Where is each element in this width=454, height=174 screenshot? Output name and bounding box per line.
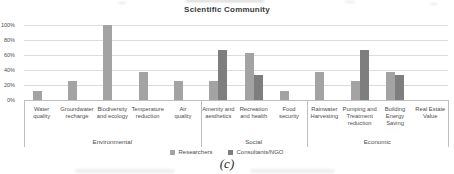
bar-researchers [209,81,218,100]
legend-label: Researchers [178,149,212,155]
category-label: Real EstateValue [410,106,451,120]
bar-consultants-ngo [395,75,404,100]
group-label: Social [201,138,307,145]
category-group-divider [24,100,25,147]
gridline [24,70,448,71]
bar-researchers [245,53,254,100]
legend-label: Consultants/NGO [236,149,283,155]
category-group-divider [201,100,202,147]
group-label: Environmental [24,138,201,145]
chart-figure: Scientific Community 0%20%40%60%80%100%W… [0,0,454,174]
bar-researchers [386,72,395,100]
legend-item: Consultants/NGO [228,149,283,155]
y-axis-tick-label: 40% [0,67,15,73]
group-label: Economic [307,138,448,145]
y-axis-tick-label: 80% [0,37,15,43]
bar-researchers [351,81,360,100]
bar-researchers [103,25,112,100]
y-axis-tick-label: 20% [0,82,15,88]
bar-consultants-ngo [254,75,263,100]
bar-researchers [139,72,148,100]
legend-swatch [170,150,175,155]
gridline [24,55,448,56]
y-axis-tick-label: 100% [0,22,15,28]
legend-swatch [228,150,233,155]
bar-consultants-ngo [360,50,369,100]
category-group-divider [307,100,308,147]
bar-researchers [315,72,324,100]
bar-researchers [68,81,77,100]
legend-item: Researchers [170,149,212,155]
gridline [24,25,448,26]
gridline [24,40,448,41]
figure-caption: (c) [0,156,454,172]
gridline [24,85,448,86]
y-axis-tick-label: 0% [0,97,15,103]
x-axis-line [24,100,448,101]
bar-consultants-ngo [218,50,227,100]
bar-researchers [33,91,42,100]
chart-legend: ResearchersConsultants/NGO [0,149,454,155]
bar-researchers [280,91,289,100]
y-axis-tick-label: 60% [0,52,15,58]
bar-researchers [174,81,183,100]
category-group-divider [448,100,449,147]
plot-area: 0%20%40%60%80%100%WaterqualityGroundwate… [0,0,454,174]
